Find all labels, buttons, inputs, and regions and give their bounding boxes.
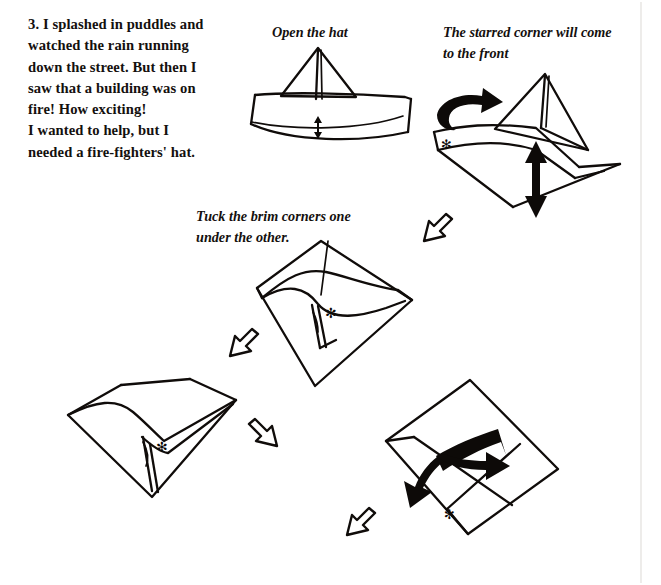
right-diamond-outline bbox=[386, 380, 558, 534]
diagram-opened-hat: ✻ bbox=[434, 74, 620, 218]
center-diamond-outline bbox=[257, 241, 412, 386]
left-brim-upper-edge bbox=[68, 400, 236, 441]
step-arrow-down-left-2 bbox=[230, 329, 258, 356]
opened-hat-left-corner bbox=[434, 132, 438, 150]
curved-turn-arrow-icon bbox=[437, 88, 503, 130]
opened-hat-inner-right bbox=[575, 171, 604, 178]
caption-line: under the other. bbox=[196, 227, 411, 248]
star-mark-icon: ✻ bbox=[325, 305, 337, 321]
hat-ridge-left bbox=[316, 49, 318, 99]
diagram-folded-paper-hat bbox=[251, 48, 411, 139]
opened-hat-right-corner bbox=[579, 164, 620, 167]
story-line: 3. I splashed in puddles and bbox=[28, 14, 243, 35]
center-tuck-pocket-left bbox=[312, 305, 320, 348]
hat-brim-top bbox=[255, 93, 411, 99]
left-diamond-top-edge bbox=[121, 379, 190, 385]
hat-brim-bottom bbox=[251, 124, 408, 139]
opened-hat-flap-edge bbox=[541, 128, 588, 150]
diagram-diamond-tucked: ✻ bbox=[68, 379, 236, 497]
center-diamond-left-notch bbox=[257, 288, 262, 298]
center-brim-upper-edge bbox=[262, 271, 412, 300]
hat-thickness-arrow bbox=[314, 116, 322, 139]
right-band-upper-edge bbox=[414, 437, 512, 505]
open-direction-arrow-icon bbox=[525, 141, 547, 218]
center-tuck-crease bbox=[313, 312, 318, 332]
right-band-lower-edge bbox=[447, 444, 520, 509]
opened-hat-inner-rim bbox=[438, 143, 575, 178]
diagram-diamond-with-brim: ✻ bbox=[257, 241, 412, 386]
center-brim-lower-edge bbox=[262, 289, 405, 316]
step-arrow-down-left-4 bbox=[347, 508, 375, 535]
story-line: watched the rain running bbox=[28, 35, 243, 56]
star-mark-icon: ✻ bbox=[444, 507, 455, 522]
hat-opening-curve bbox=[252, 116, 403, 128]
caption-line: Tuck the brim corners one bbox=[196, 206, 411, 227]
left-diamond-outline bbox=[68, 385, 236, 497]
left-tuck-pocket-left bbox=[143, 437, 152, 491]
instruction-page: 3. I splashed in puddles and watched the… bbox=[0, 0, 661, 585]
story-text-block: 3. I splashed in puddles and watched the… bbox=[28, 14, 243, 163]
opened-hat-lower-right-edge bbox=[513, 164, 620, 207]
opened-hat-top-rim bbox=[434, 125, 579, 167]
caption-starred-corner: The starred corner will come to the fron… bbox=[443, 22, 653, 63]
diagram-diamond-flatten: ✻ bbox=[386, 380, 558, 534]
right-fold-bottom bbox=[447, 509, 468, 534]
center-tuck-pocket-right bbox=[318, 306, 326, 347]
opened-hat-lower-left-edge bbox=[438, 150, 513, 207]
opened-hat-flap-ridge-a bbox=[541, 75, 545, 128]
caption-line: The starred corner will come bbox=[443, 22, 653, 43]
story-line: I wanted to help, but I bbox=[28, 120, 243, 141]
opened-hat-upper-flap bbox=[495, 74, 588, 150]
star-mark-icon: ✻ bbox=[156, 439, 168, 455]
story-line: saw that a building was on bbox=[28, 78, 243, 99]
hat-peak bbox=[281, 48, 356, 97]
step-arrow-down-left-1 bbox=[424, 214, 452, 241]
left-diamond-top-right-edge bbox=[190, 379, 236, 400]
left-brim-lower-edge bbox=[142, 404, 233, 453]
center-tuck-pocket-base bbox=[320, 340, 336, 348]
story-line: down the street. But then I bbox=[28, 57, 243, 78]
story-line: needed a fire-fighters' hat. bbox=[28, 142, 243, 163]
caption-line: Open the hat bbox=[272, 22, 348, 43]
hat-brim-right bbox=[408, 99, 411, 132]
caption-line: to the front bbox=[443, 43, 653, 64]
left-tuck-pocket-right bbox=[150, 444, 158, 492]
star-mark-icon: ✻ bbox=[441, 137, 452, 152]
hat-ridge-right bbox=[321, 50, 322, 99]
opened-hat-flap-ridge-b bbox=[546, 76, 549, 127]
flatten-double-arrow-icon bbox=[404, 429, 510, 508]
center-top-crease bbox=[321, 241, 328, 295]
left-tuck-crease bbox=[143, 442, 148, 466]
step-arrow-down-right-3 bbox=[249, 419, 277, 446]
caption-open-the-hat: Open the hat bbox=[272, 22, 348, 43]
caption-tuck-brim: Tuck the brim corners one under the othe… bbox=[196, 206, 411, 247]
hat-brim-left bbox=[251, 95, 255, 124]
right-fold-left bbox=[386, 437, 414, 441]
story-line: fire! How exciting! bbox=[28, 99, 243, 120]
